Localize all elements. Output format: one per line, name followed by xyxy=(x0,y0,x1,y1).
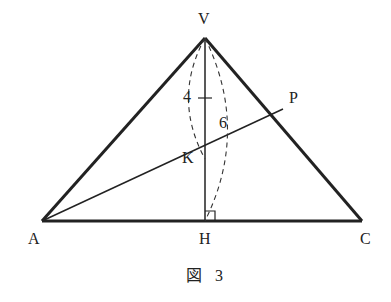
segment-AP xyxy=(42,109,283,221)
figure-caption-number: 3 xyxy=(215,267,223,284)
side-VA xyxy=(42,38,205,221)
label-length-VH: 6 xyxy=(219,114,227,131)
side-VC xyxy=(205,38,362,221)
label-P: P xyxy=(289,89,298,106)
label-H: H xyxy=(199,230,211,247)
label-C: C xyxy=(360,230,371,247)
label-length-VK: 4 xyxy=(183,88,191,105)
label-A: A xyxy=(28,230,40,247)
pyramid-cross-section-diagram: V K P A H C 4 6 図 3 xyxy=(0,0,391,302)
label-V: V xyxy=(198,10,210,27)
label-K: K xyxy=(182,149,194,166)
figure-caption-kanji: 図 xyxy=(186,267,202,284)
